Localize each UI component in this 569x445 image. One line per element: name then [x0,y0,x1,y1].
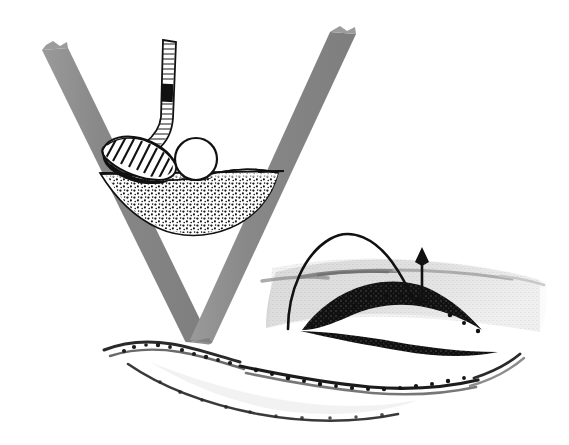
illustration-canvas [0,0,569,445]
golf-ball-in-sand [175,138,217,181]
golf-ball [175,138,217,180]
golf-bunker-shot-illustration: Golf Bunker Shot Technique sand wedge ex… [0,0,569,445]
sand-level-reference-line-right [258,171,284,172]
